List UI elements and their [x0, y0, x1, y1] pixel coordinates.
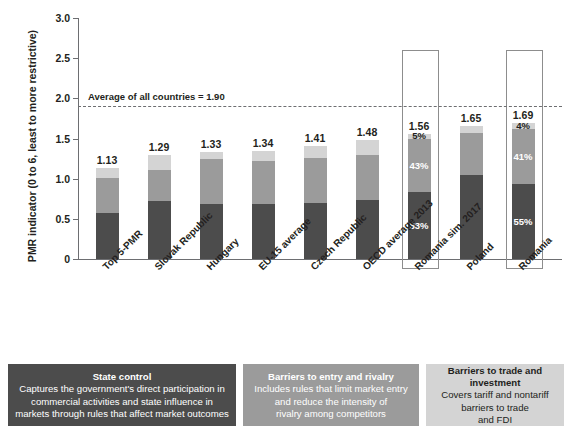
- legend-desc-barriers-to-entry-line-1: Includes rules that limit market entry: [254, 383, 408, 395]
- bar-top-5-pmr[interactable]: [96, 168, 119, 259]
- bar-eu-15-average[interactable]: [252, 151, 275, 259]
- y-axis-tick-label: 2.0: [46, 93, 70, 104]
- bar-poland[interactable]: [460, 126, 483, 259]
- bar-segment-barriers-to-entry-and-rivalry: [148, 170, 171, 201]
- bar-slovak-republic[interactable]: [148, 155, 171, 259]
- bar-segment-barriers-to-entry-and-rivalry: [304, 158, 327, 203]
- legend-desc-barriers-to-entry-line-3: rivalry among competitors: [276, 408, 386, 420]
- bar-total-label: 1.48: [341, 127, 393, 138]
- y-axis-tick-label: 2.5: [46, 53, 70, 64]
- average-line-label: Average of all countries = 1.90: [88, 91, 225, 102]
- legend-desc-barriers-to-trade-line-2: barriers to trade: [461, 402, 529, 414]
- y-axis-tick-label: 1.5: [46, 134, 70, 145]
- legend-box-barriers-to-entry: Barriers to entry and rivalry Includes r…: [243, 364, 419, 426]
- legend-desc-barriers-to-trade-line-3: and FDI: [478, 414, 512, 426]
- average-line: [78, 106, 562, 107]
- bar-hungary[interactable]: [200, 152, 223, 259]
- legend-box-state-control: State control Captures the government's …: [8, 364, 236, 426]
- y-axis-tick: [73, 259, 78, 260]
- bar-total-label: 1.29: [133, 142, 185, 153]
- segment-percent-label: 55%: [513, 217, 532, 227]
- y-axis-tick-label: 3.0: [46, 13, 70, 24]
- bar-segment-barriers-to-trade-and-investment: [356, 140, 379, 154]
- segment-percent-label: 43%: [409, 161, 428, 171]
- bar-czech-republic[interactable]: [304, 146, 327, 259]
- bar-total-label: 1.41: [289, 133, 341, 144]
- bar-segment-barriers-to-entry-and-rivalry: [252, 161, 275, 204]
- y-axis-title: PMR indicator (0 to 6, least to more res…: [26, 21, 38, 271]
- bar-total-label: 1.33: [185, 139, 237, 150]
- pmr-stacked-bar-chart: PMR indicator (0 to 6, least to more res…: [0, 0, 572, 432]
- y-axis-tick-label: 0: [46, 254, 70, 265]
- legend-desc-barriers-to-trade-line-1: Covers tariff and nontariff: [441, 389, 548, 401]
- segment-percent-label: 41%: [513, 152, 532, 162]
- bar-romania[interactable]: 4%41%55%: [512, 123, 535, 259]
- bar-segment-barriers-to-entry-and-rivalry: [356, 155, 379, 201]
- y-axis-tick-label: 0.5: [46, 214, 70, 225]
- bar-total-label: 1.56: [393, 121, 445, 132]
- bar-segment-barriers-to-trade-and-investment: [96, 168, 119, 178]
- bar-segment-barriers-to-entry-and-rivalry: [96, 178, 119, 213]
- legend: State control Captures the government's …: [8, 364, 564, 426]
- bar-segment-barriers-to-entry-and-rivalry: [200, 159, 223, 205]
- y-axis-tick-label: 1.0: [46, 174, 70, 185]
- legend-title-barriers-to-trade: Barriers to trade and investment: [432, 365, 558, 390]
- legend-title-barriers-to-entry: Barriers to entry and rivalry: [268, 371, 394, 383]
- legend-desc-barriers-to-entry-line-2: and reduce the intensity of: [275, 396, 388, 408]
- legend-desc-state-control-line-1: Captures the government's direct partici…: [19, 383, 225, 395]
- bar-total-label: 1.13: [81, 155, 133, 166]
- bar-segment-barriers-to-trade-and-investment: [148, 155, 171, 169]
- bar-segment-barriers-to-entry-and-rivalry: [460, 133, 483, 176]
- bar-total-label: 1.65: [445, 113, 497, 124]
- bar-segment-barriers-to-entry-and-rivalry: 41%: [512, 129, 535, 184]
- bar-segment-barriers-to-trade-and-investment: [304, 146, 327, 158]
- legend-desc-state-control-line-2: commercial activities and state influenc…: [31, 396, 213, 408]
- bar-total-label: 1.34: [237, 138, 289, 149]
- legend-desc-state-control-line-3: markets through rules that affect market…: [15, 408, 229, 420]
- bar-segment-barriers-to-entry-and-rivalry: 43%: [408, 139, 431, 193]
- legend-box-barriers-to-trade: Barriers to trade and investment Covers …: [426, 364, 564, 426]
- bar-oecd-average-2013[interactable]: [356, 140, 379, 259]
- legend-title-state-control: State control: [93, 371, 152, 383]
- bar-total-label: 1.69: [497, 110, 549, 121]
- bar-segment-barriers-to-trade-and-investment: [252, 151, 275, 161]
